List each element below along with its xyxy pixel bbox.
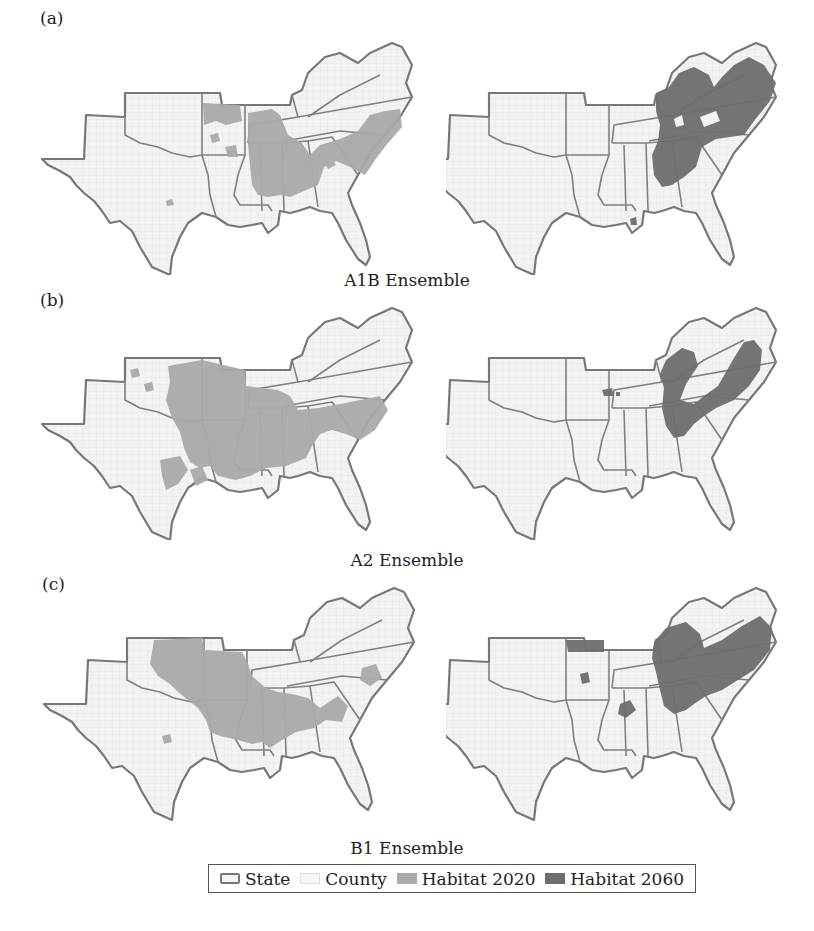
- map-b-habitat-2060: [446, 300, 814, 540]
- panel-label-a: (a): [40, 8, 63, 28]
- legend: State County Habitat 2020 Habitat 2060: [208, 864, 696, 893]
- map-c-habitat-2060: [446, 580, 814, 830]
- habitat-2060-swatch-icon: [545, 873, 565, 884]
- legend-item-habitat-2060: Habitat 2060: [545, 869, 684, 889]
- habitat-2020-swatch-icon: [397, 873, 417, 884]
- state-outline-icon: [220, 873, 240, 884]
- legend-label-state: State: [245, 869, 291, 889]
- legend-item-state: State: [220, 869, 291, 889]
- caption-a: A1B Ensemble: [0, 270, 814, 290]
- caption-c: B1 Ensemble: [0, 838, 814, 858]
- county-fill-icon: [300, 873, 320, 884]
- legend-label-habitat-2020: Habitat 2020: [422, 869, 536, 889]
- caption-b: A2 Ensemble: [0, 550, 814, 570]
- legend-label-county: County: [325, 869, 387, 889]
- legend-label-habitat-2060: Habitat 2060: [570, 869, 684, 889]
- map-a-habitat-2020: [40, 35, 420, 275]
- map-c-habitat-2020: [42, 580, 422, 830]
- legend-item-county: County: [300, 869, 387, 889]
- map-a-habitat-2060: [446, 35, 814, 275]
- legend-item-habitat-2020: Habitat 2020: [397, 869, 536, 889]
- map-b-habitat-2020: [40, 300, 420, 540]
